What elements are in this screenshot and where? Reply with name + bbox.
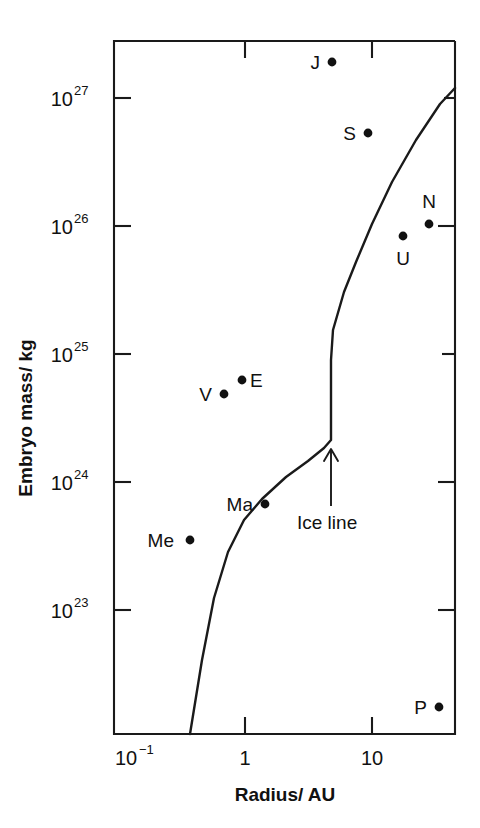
y-tick-label-1e27-exponent: 27	[74, 83, 88, 98]
data-point-label-saturn: S	[343, 123, 356, 144]
x-axis-title: Radius/ AU	[235, 784, 336, 805]
plot-frame	[114, 41, 455, 734]
data-point-label-mercury: Me	[148, 530, 174, 551]
y-tick-label-1e27-mantissa: 10	[51, 88, 73, 110]
x-tick-labels: 10 −1 1 10	[115, 742, 383, 769]
data-point-pluto[interactable]	[435, 703, 444, 712]
data-point-label-mars: Ma	[227, 494, 254, 515]
x-tick-label-1e-1-mantissa: 10	[115, 747, 137, 769]
data-point-label-venus: V	[199, 384, 212, 405]
embryo-mass-vs-radius-chart: 10 27 10 26 10 25 10 24 10 23 10 −1 1 10…	[0, 0, 480, 828]
data-point-label-pluto: P	[414, 697, 427, 718]
data-point-label-earth: E	[250, 370, 263, 391]
y-tick-labels: 10 27 10 26 10 25 10 24 10 23	[51, 83, 89, 622]
data-point-mercury[interactable]	[186, 536, 195, 545]
y-tick-label-1e26-exponent: 26	[74, 211, 88, 226]
data-point-label-jupiter: J	[311, 52, 321, 73]
data-point-neptune[interactable]	[425, 220, 434, 229]
data-point-jupiter[interactable]	[328, 58, 337, 67]
data-points: Me V E Ma J S U N P	[148, 52, 444, 718]
x-tick-label-1e-1-exponent: −1	[139, 742, 154, 757]
y-tick-label-1e25-exponent: 25	[74, 339, 88, 354]
data-point-saturn[interactable]	[364, 129, 373, 138]
data-point-label-neptune: N	[422, 191, 436, 212]
x-axis-ticks	[245, 41, 372, 734]
data-point-mars[interactable]	[261, 500, 270, 509]
data-point-venus[interactable]	[220, 390, 229, 399]
data-point-label-uranus: U	[396, 248, 410, 269]
y-tick-label-1e23-exponent: 23	[74, 595, 88, 610]
ice-line-label: Ice line	[297, 512, 357, 533]
y-tick-label-1e24-mantissa: 10	[51, 472, 73, 494]
y-tick-label-1e26-mantissa: 10	[51, 216, 73, 238]
x-tick-label-1: 1	[239, 747, 250, 769]
y-tick-label-1e24-exponent: 24	[74, 467, 88, 482]
figure-root: 10 27 10 26 10 25 10 24 10 23 10 −1 1 10…	[0, 0, 480, 828]
y-tick-label-1e23-mantissa: 10	[51, 600, 73, 622]
data-point-earth[interactable]	[238, 376, 247, 385]
data-point-uranus[interactable]	[399, 232, 408, 241]
x-tick-label-10: 10	[361, 747, 383, 769]
y-tick-label-1e25-mantissa: 10	[51, 344, 73, 366]
y-axis-title: Embryo mass/ kg	[15, 339, 36, 496]
isolation-mass-curve	[190, 88, 455, 734]
